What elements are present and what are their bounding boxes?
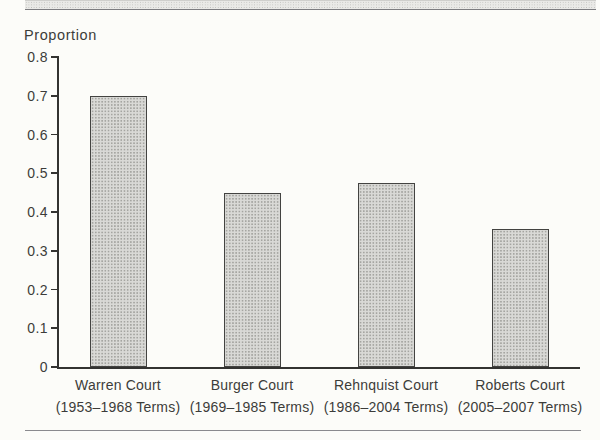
y-tick-label: 0.2 bbox=[8, 282, 48, 298]
x-axis-line bbox=[57, 367, 580, 369]
x-category-label: Rehnquist Court(1986–2004 Terms) bbox=[311, 374, 461, 418]
top-rule-band bbox=[25, 0, 596, 10]
y-tick-mark bbox=[51, 327, 57, 329]
category-name: Rehnquist Court bbox=[311, 374, 461, 396]
x-category-label: Burger Court(1969–1985 Terms) bbox=[177, 374, 327, 418]
y-tick-label: 0.1 bbox=[8, 320, 48, 336]
y-tick-label: 0.8 bbox=[8, 49, 48, 65]
y-tick-mark bbox=[51, 172, 57, 174]
category-name: Burger Court bbox=[177, 374, 327, 396]
bar-burger-court bbox=[224, 193, 281, 367]
y-tick-mark bbox=[51, 366, 57, 368]
y-axis-title: Proportion bbox=[24, 27, 97, 43]
bar-roberts-court bbox=[492, 229, 549, 367]
bar-rehnquist-court bbox=[358, 183, 415, 367]
category-name: Roberts Court bbox=[445, 374, 595, 396]
y-axis-line bbox=[57, 56, 59, 368]
y-tick-label: 0.5 bbox=[8, 165, 48, 181]
category-terms: (1986–2004 Terms) bbox=[311, 396, 461, 418]
y-tick-mark bbox=[51, 289, 57, 291]
y-tick-label: 0.6 bbox=[8, 127, 48, 143]
category-terms: (2005–2007 Terms) bbox=[445, 396, 595, 418]
y-tick-mark bbox=[51, 95, 57, 97]
y-tick-mark bbox=[51, 134, 57, 136]
y-tick-label: 0.3 bbox=[8, 243, 48, 259]
x-category-label: Warren Court(1953–1968 Terms) bbox=[43, 374, 193, 418]
figure-page: Proportion 00.10.20.30.40.50.60.70.8 War… bbox=[0, 0, 600, 440]
category-terms: (1953–1968 Terms) bbox=[43, 396, 193, 418]
y-tick-label: 0.4 bbox=[8, 204, 48, 220]
y-tick-label: 0 bbox=[8, 359, 48, 375]
category-name: Warren Court bbox=[43, 374, 193, 396]
y-tick-label: 0.7 bbox=[8, 88, 48, 104]
y-tick-mark bbox=[51, 250, 57, 252]
bottom-rule bbox=[25, 430, 581, 431]
y-tick-mark bbox=[51, 211, 57, 213]
x-category-label: Roberts Court(2005–2007 Terms) bbox=[445, 374, 595, 418]
y-tick-mark bbox=[51, 56, 57, 58]
category-terms: (1969–1985 Terms) bbox=[177, 396, 327, 418]
bar-warren-court bbox=[90, 96, 147, 367]
